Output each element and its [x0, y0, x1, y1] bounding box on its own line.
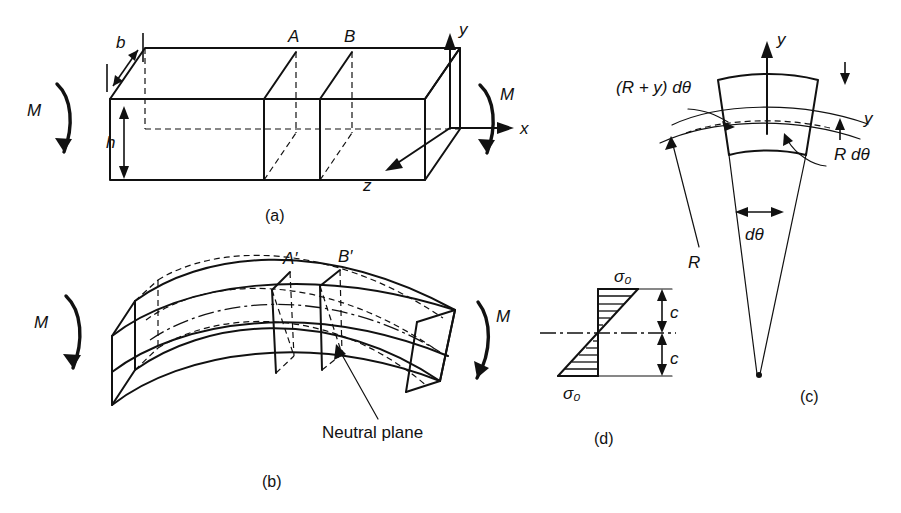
dimension-h	[119, 106, 129, 179]
curved-beam-left-hidden-top	[135, 280, 158, 301]
dimension-c-upper	[657, 289, 667, 333]
label-y-offset: y	[863, 109, 874, 128]
beam-top-face	[110, 48, 460, 99]
stress-label-bottom: σ₀	[563, 384, 580, 403]
dimension-label-b: b	[116, 33, 125, 52]
dimension-label-c-lower: c	[670, 349, 679, 368]
moment-arrow-left-a	[55, 84, 72, 152]
section-label-a-prime: A′	[282, 249, 298, 268]
label-d-theta: dθ	[745, 225, 764, 244]
dimension-label-h: h	[106, 133, 115, 152]
label-radius: R	[688, 253, 700, 272]
stress-label-top: σ₀	[614, 267, 631, 286]
panel-d: σ₀ σ₀ c c (d)	[540, 267, 679, 447]
axis-label-z-a: z	[362, 176, 372, 195]
section-plane-b-prime-top	[320, 270, 340, 286]
panel-a: M A B	[27, 20, 529, 224]
dimension-d-theta	[735, 207, 784, 217]
axis-label-y-a: y	[458, 20, 469, 39]
panel-c: y (R + y) dθ R dθ y	[616, 30, 874, 405]
section-plane-b-hidden-b	[320, 133, 352, 180]
neutral-plane-label: Neutral plane	[322, 423, 423, 442]
section-label-b-prime: B′	[338, 247, 353, 266]
moment-arrow-right-a	[478, 85, 495, 153]
panel-caption-b: (b)	[262, 473, 282, 490]
moment-label-right-b: M	[496, 307, 511, 326]
axis-label-y-c: y	[776, 30, 787, 49]
beam-front-face	[110, 99, 425, 180]
stress-hatching-lower	[565, 341, 598, 369]
beam-right-face	[425, 48, 460, 180]
section-plane-a-top	[264, 52, 296, 99]
section-label-b: B	[344, 27, 355, 46]
bending-figure: M A B	[0, 0, 901, 513]
fiber-hidden-lower	[158, 321, 427, 386]
panel-caption-d: (d)	[594, 430, 614, 447]
neutral-plane-leader	[334, 344, 378, 419]
dimension-y-offset	[835, 62, 850, 140]
axis-label-x-a: x	[519, 119, 529, 138]
curved-beam-right-depth-top	[417, 310, 455, 322]
moment-label-right-a: M	[500, 85, 515, 104]
dimension-c-lower	[657, 333, 667, 376]
section-plane-a-prime-top	[272, 272, 290, 290]
moment-arrow-right-b	[474, 302, 489, 378]
section-plane-b-top	[320, 52, 352, 99]
fiber-hidden-upper	[158, 255, 443, 318]
panel-b: M	[34, 247, 511, 490]
section-plane-a-prime-hidden-b	[276, 356, 294, 373]
moment-label-left-a: M	[27, 101, 42, 120]
axis-y-c	[761, 41, 773, 134]
axis-y-a	[444, 33, 456, 128]
axis-z-a	[385, 128, 450, 171]
radial-line-left	[729, 155, 757, 374]
curved-beam-right-end	[440, 310, 455, 381]
stress-hatching-upper	[598, 296, 631, 325]
center-of-curvature	[756, 372, 762, 378]
section-label-a: A	[287, 27, 299, 46]
curved-beam-left-face	[112, 301, 135, 405]
arc-neutral-axis	[660, 123, 860, 143]
section-plane-b-prime-front	[320, 286, 322, 370]
leader-radius	[665, 136, 699, 247]
dimension-label-c-upper: c	[670, 303, 679, 322]
radial-line-right	[760, 155, 806, 374]
moment-arrow-left-b	[63, 296, 81, 368]
panel-caption-a: (a)	[265, 207, 285, 224]
section-plane-b-prime-diag	[320, 286, 342, 354]
curved-beam-right-inner	[406, 322, 417, 392]
panel-caption-c: (c)	[800, 388, 819, 405]
label-arc-outer: (R + y) dθ	[616, 78, 692, 97]
section-plane-a-prime-front	[272, 290, 276, 373]
figure-canvas: M A B	[0, 0, 901, 513]
moment-label-left-b: M	[34, 313, 49, 332]
section-plane-a-hidden-b	[264, 133, 296, 180]
label-arc-neutral: R dθ	[834, 145, 870, 164]
